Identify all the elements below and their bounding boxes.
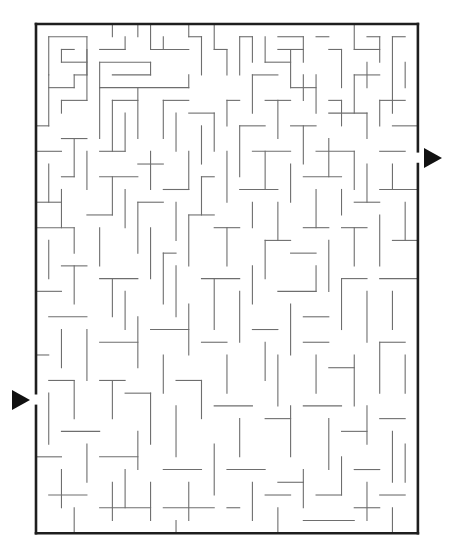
- exit-arrow-icon: [424, 148, 442, 168]
- maze: [0, 0, 468, 558]
- maze-walls: [36, 24, 418, 533]
- entrance-arrow-icon: [12, 390, 30, 410]
